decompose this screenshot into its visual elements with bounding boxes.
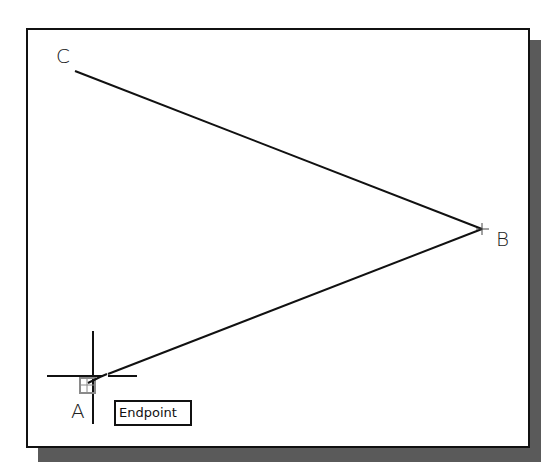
segment-b-a[interactable] [108, 229, 482, 374]
drawing-canvas[interactable]: C B A Endpoint [0, 0, 557, 475]
point-label-a: A [71, 401, 85, 421]
point-label-b: B [496, 229, 509, 249]
point-label-c: C [56, 46, 70, 66]
segment-c-b[interactable] [75, 71, 482, 229]
osnap-tooltip: Endpoint [114, 400, 192, 426]
vertex-marker-b [476, 223, 489, 235]
